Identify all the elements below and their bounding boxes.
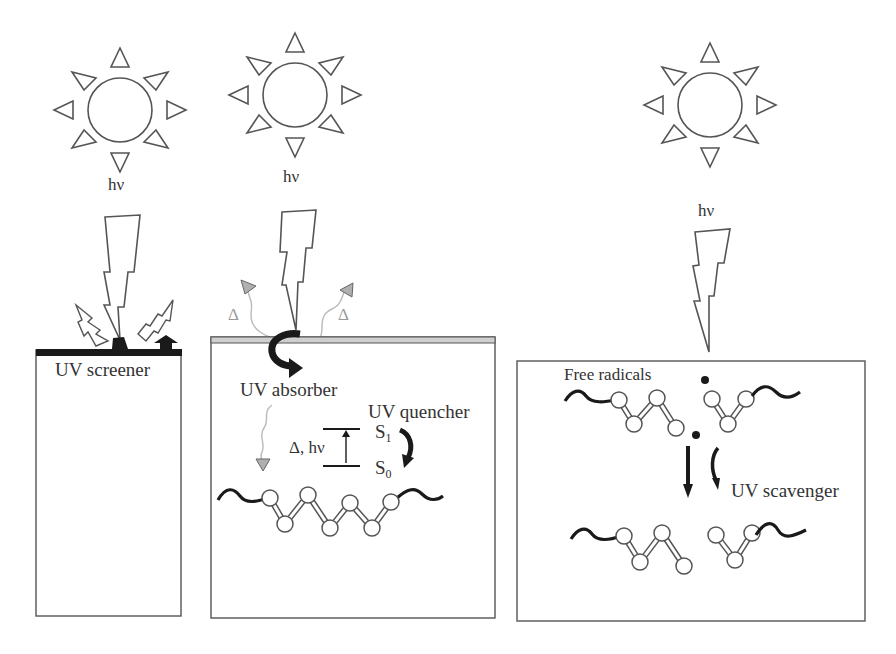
free-radicals-label: Free radicals bbox=[564, 366, 651, 383]
panel-screener bbox=[36, 48, 186, 616]
transition-label: Δ, hν bbox=[289, 439, 325, 456]
uv-absorber-label: UV absorber bbox=[240, 380, 337, 399]
photon-label: hν bbox=[698, 202, 714, 219]
photon-label: hν bbox=[108, 176, 124, 193]
reflected-bolt-icon bbox=[138, 300, 173, 341]
photon-label: hν bbox=[283, 168, 299, 185]
panel-absorber-quencher bbox=[211, 33, 495, 618]
sun-icon bbox=[229, 33, 361, 157]
impact-block-icon bbox=[112, 337, 128, 349]
substrate-box bbox=[36, 350, 181, 616]
sun-icon bbox=[644, 43, 776, 167]
lightning-bolt-icon bbox=[104, 215, 140, 340]
heat-symbol-right: Δ bbox=[338, 306, 349, 323]
uv-stabilizer-diagram bbox=[0, 0, 896, 654]
lightning-bolt-icon bbox=[280, 210, 316, 330]
reflected-bolt-icon bbox=[76, 305, 108, 346]
absorber-coating bbox=[211, 337, 495, 343]
uv-scavenger-label: UV scavenger bbox=[731, 481, 839, 500]
lightning-bolt-icon bbox=[693, 229, 730, 352]
uv-screener-label: UV screener bbox=[55, 360, 150, 379]
heat-symbol-left: Δ bbox=[228, 306, 239, 323]
sun-icon bbox=[54, 48, 186, 172]
uv-quencher-label: UV quencher bbox=[368, 402, 469, 421]
panel-scavenger bbox=[517, 43, 865, 621]
s1-label: S1 bbox=[375, 422, 392, 441]
radical-dot-icon bbox=[692, 431, 700, 439]
s0-label: S0 bbox=[375, 458, 392, 477]
radical-dot-icon bbox=[701, 376, 709, 384]
screener-layer bbox=[36, 349, 182, 356]
reflect-arrow-icon bbox=[154, 335, 178, 349]
